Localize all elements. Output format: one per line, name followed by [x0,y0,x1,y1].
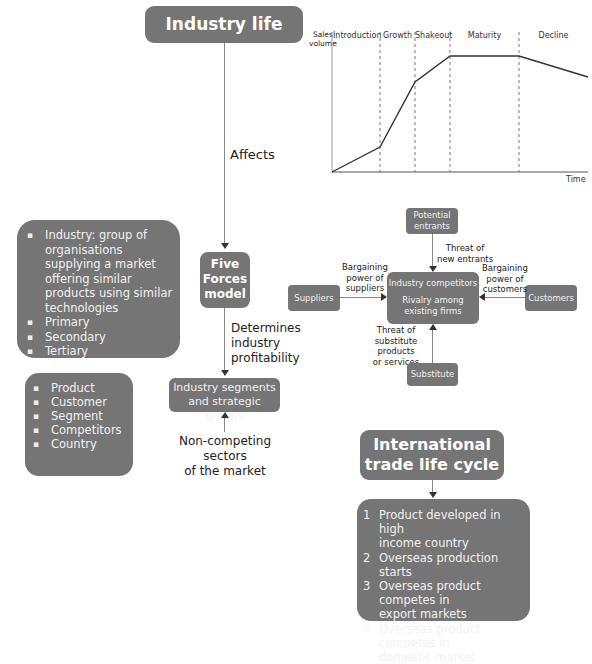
substitute-box: Substitute [407,363,458,386]
phase-maturity: Maturity [450,31,519,40]
industry-segments-box: Industry segments and strategic groups [169,378,280,412]
phase-introduction: Introduction [333,31,380,40]
list-item: 4 Overseas product competes in domestic … [357,622,528,664]
segmentation-bases-list: Product Customer Segment Competitors Cou… [25,381,131,451]
label-line: customers [482,284,528,295]
industry-life-cycle-title-box: Industry life cycle [145,6,303,43]
list-item: 2 Overseas production starts [357,551,528,579]
step-number: 2 [363,551,370,565]
determines-label: Determines industry profitability [231,321,301,366]
step-line: Overseas product competes in [379,579,528,607]
label-line: power of [482,274,528,285]
label-line: power of [342,273,388,284]
customer-power-label: Bargaining power of customers [482,263,528,295]
potential-entrants-line: entrants [406,221,458,232]
arrow-down-icon [221,243,229,249]
suppliers-box: Suppliers [288,285,340,311]
phase-shakeout: Shakeout [415,31,450,40]
non-competing-line: Non-competing sectors [160,434,290,464]
step-line: Overseas product competes in [379,622,528,650]
international-trade-title-box: International trade life cycle [360,430,504,480]
itlc-title-line: International [360,435,504,455]
list-item: Country [25,437,131,451]
five-forces-box: Five Forces model [200,252,250,308]
life-cycle-chart: Sales volume Introduction Growth Shakeou… [305,20,592,210]
potential-entrants-box: Potential entrants [406,208,458,234]
potential-entrants-line: Potential [406,210,458,221]
connector-line [485,297,525,298]
x-axis-label: Time [566,175,586,184]
segments-line: Industry segments [169,381,280,395]
arrow-down-icon [429,492,437,498]
list-item: 1 Product developed in high income count… [357,508,528,551]
list-item: Customer [25,395,131,409]
five-forces-title-line: Five [200,257,250,272]
list-item: Segment [25,409,131,423]
list-item: Primary [19,315,176,330]
determines-line: Determines [231,321,301,336]
itlc-title-line: trade life cycle [360,455,504,475]
connector-line [224,418,225,432]
arrow-down-icon [221,370,229,376]
step-line: Overseas production starts [379,551,528,579]
step-line: export markets [379,607,528,621]
step-number: 4 [363,622,370,636]
step-line: Product developed in high [379,508,528,536]
label-line: substitute products [356,336,436,357]
arrow-up-icon [221,412,229,418]
step-number: 3 [363,579,370,593]
step-line: income country [379,536,528,550]
step-number: 1 [363,508,370,522]
label-line: Threat of [437,243,493,254]
threat-substitutes-label: Threat of substitute products or service… [356,325,436,367]
customers-label: Customers [528,293,574,303]
list-item: Tertiary [19,344,176,359]
five-forces-title-line: model [200,287,250,302]
rivalry-line: existing firms [387,306,479,317]
segmentation-bases-box: Product Customer Segment Competitors Cou… [25,373,133,476]
connector-line [340,297,382,298]
itlc-steps-list: 1 Product developed in high income count… [357,508,528,664]
determines-line: profitability [231,351,301,366]
industry-competitors-label: Industry competitors [387,278,479,289]
phase-growth: Growth [380,31,415,40]
connector-line [224,43,225,243]
rivalry-line: Rivalry among [387,295,479,306]
list-item: Secondary [19,330,176,345]
non-competing-label: Non-competing sectors of the market [160,434,290,479]
industry-definition-list: Industry: group of organisations supplyi… [19,228,176,359]
industry-competitors-box: Industry competitors Rivalry among exist… [387,272,479,324]
label-line: Bargaining [482,263,528,274]
substitute-label: Substitute [411,369,455,379]
label-line: suppliers [342,283,388,294]
connector-line [432,234,433,267]
list-item: Competitors [25,423,131,437]
phase-decline: Decline [519,31,588,40]
step-line: domestic market [379,650,528,664]
customers-box: Customers [525,285,577,311]
five-forces-title-line: Forces [200,272,250,287]
suppliers-label: Suppliers [294,293,333,303]
life-cycle-chart-svg [305,20,592,210]
connector-line [224,308,225,371]
threat-new-entrants-label: Threat of new entrants [437,243,493,265]
industry-definition-box: Industry: group of organisations supplyi… [17,220,180,358]
non-competing-line: of the market [160,464,290,479]
label-line: Bargaining [342,262,388,273]
supplier-power-label: Bargaining power of suppliers [342,262,388,294]
determines-line: industry [231,336,301,351]
label-line: Threat of [356,325,436,336]
list-item: Industry: group of organisations supplyi… [19,228,176,315]
affects-label: Affects [230,147,275,162]
international-trade-steps-box: 1 Product developed in high income count… [357,499,530,621]
list-item: 3 Overseas product competes in export ma… [357,579,528,622]
list-item: Product [25,381,131,395]
